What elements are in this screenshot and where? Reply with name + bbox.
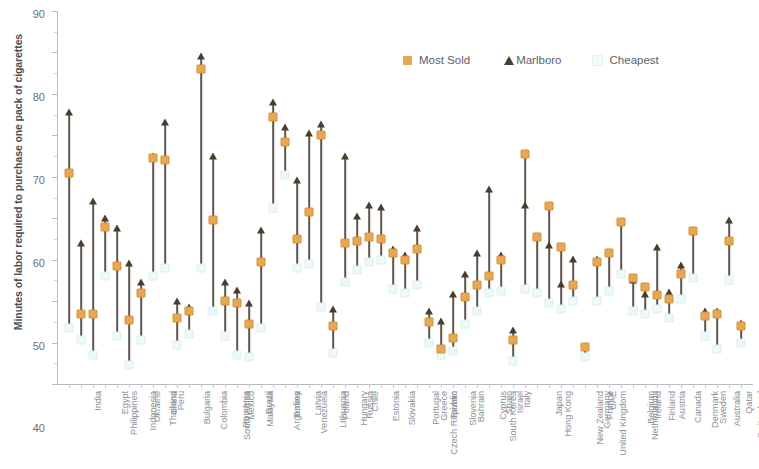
most-sold-marker — [389, 249, 398, 258]
marlboro-marker — [425, 307, 433, 314]
cheapest-marker — [389, 284, 398, 293]
cheapest-marker — [569, 297, 578, 306]
x-axis-label: India — [93, 391, 103, 411]
marlboro-marker — [653, 243, 661, 250]
marlboro-marker — [89, 198, 97, 205]
data-stem — [92, 202, 94, 355]
most-sold-marker — [197, 65, 206, 74]
x-axis-label: Japan — [554, 391, 564, 416]
data-stem — [200, 57, 202, 268]
y-axis-line — [57, 11, 58, 384]
data-stem — [116, 229, 118, 337]
most-sold-marker — [113, 261, 122, 270]
cheapest-marker — [233, 350, 242, 359]
cheapest-marker — [461, 319, 470, 328]
cheapest-marker — [593, 297, 602, 306]
x-axis-label: Egypt — [120, 391, 130, 414]
most-sold-marker — [353, 237, 362, 246]
x-axis-label: Italy — [522, 391, 532, 408]
x-axis-label: Peru — [176, 391, 186, 410]
x-axis-label: United Kingdom — [618, 391, 628, 456]
cheapest-marker — [257, 324, 266, 333]
cheapest-marker — [677, 295, 686, 304]
most-sold-marker — [377, 234, 386, 243]
x-axis-label: Poland — [341, 391, 351, 419]
y-minor-tick — [54, 73, 57, 74]
marlboro-marker — [521, 202, 529, 209]
x-axis-label: Slovakia — [407, 391, 417, 425]
cheapest-marker — [221, 332, 230, 341]
cheapest-marker — [485, 288, 494, 297]
cheapest-marker — [329, 348, 338, 357]
most-sold-marker — [461, 292, 470, 301]
x-axis-label: Hong Kong — [563, 391, 573, 437]
most-sold-marker — [305, 208, 314, 217]
cheapest-marker — [293, 263, 302, 272]
plot-area: 0102030405060708090 — [57, 8, 753, 384]
x-axis-label: UAE — [608, 391, 618, 410]
marlboro-marker — [509, 326, 517, 333]
y-tick-label: 80 — [33, 91, 45, 103]
x-axis-label: Colombia — [219, 391, 229, 429]
most-sold-marker — [533, 232, 542, 241]
cheapest-marker — [533, 288, 542, 297]
data-stem — [68, 113, 70, 329]
cheapest-marker — [305, 259, 314, 268]
marlboro-marker — [77, 239, 85, 246]
most-sold-marker — [641, 282, 650, 291]
most-sold-marker — [425, 317, 434, 326]
cheapest-marker — [617, 270, 626, 279]
x-axis-label: Canada — [693, 391, 703, 423]
most-sold-marker — [437, 344, 446, 353]
y-tick-label: 90 — [33, 8, 45, 20]
data-stem — [608, 253, 610, 290]
y-minor-tick — [54, 322, 57, 323]
data-stem — [284, 127, 286, 175]
x-axis-label: Greece — [439, 391, 449, 421]
cheapest-marker — [713, 344, 722, 353]
y-axis-title: Minutes of labor required to purchase on… — [12, 12, 24, 352]
marlboro-marker — [125, 260, 133, 267]
cheapest-marker — [209, 307, 218, 316]
x-axis-label: Australia — [732, 391, 742, 426]
y-tick: 60 — [52, 135, 57, 136]
x-axis-label: Ireland — [653, 391, 663, 419]
cheapest-marker — [245, 353, 254, 362]
marlboro-marker — [377, 204, 385, 211]
marlboro-marker — [557, 281, 565, 288]
x-axis-label: Brazil — [264, 391, 274, 414]
most-sold-marker — [173, 313, 182, 322]
marlboro-marker — [545, 241, 553, 248]
cheapest-marker — [737, 338, 746, 347]
most-sold-marker — [341, 239, 350, 248]
x-axis-label: Spain — [504, 391, 514, 414]
most-sold-marker — [569, 280, 578, 289]
y-minor-tick — [54, 363, 57, 364]
cheapest-marker — [413, 280, 422, 289]
most-sold-marker — [581, 342, 590, 351]
most-sold-marker — [665, 295, 674, 304]
data-stem — [524, 154, 526, 289]
most-sold-marker — [269, 112, 278, 121]
cheapest-marker — [521, 284, 530, 293]
x-axis-label: Estonia — [391, 391, 401, 421]
x-axis-label: Taiwan — [449, 391, 459, 419]
y-minor-tick — [54, 280, 57, 281]
marlboro-marker — [161, 119, 169, 126]
y-tick: 50 — [52, 177, 57, 178]
x-axis-label: Finland — [667, 391, 677, 421]
most-sold-marker — [281, 137, 290, 146]
data-stem — [212, 156, 214, 311]
marlboro-marker — [173, 297, 181, 304]
data-stem — [620, 222, 622, 274]
cheapest-marker — [137, 336, 146, 345]
cheapest-marker — [341, 278, 350, 287]
most-sold-marker — [689, 226, 698, 235]
marlboro-marker — [305, 129, 313, 136]
marlboro-marker — [233, 287, 241, 294]
marlboro-marker — [245, 299, 253, 306]
cheapest-marker — [161, 263, 170, 272]
most-sold-marker — [737, 321, 746, 330]
marlboro-marker — [257, 227, 265, 234]
marlboro-marker — [329, 305, 337, 312]
